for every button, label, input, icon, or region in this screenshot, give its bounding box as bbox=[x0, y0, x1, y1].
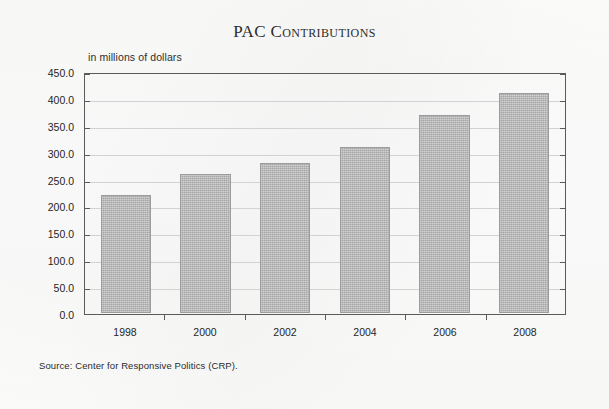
bar-slot bbox=[484, 74, 564, 313]
bar-slot bbox=[325, 74, 405, 313]
x-tick-label: 2004 bbox=[325, 326, 405, 338]
y-tick-label: 400.0 bbox=[48, 94, 74, 106]
x-axis-tick bbox=[405, 315, 406, 320]
x-axis-ticks bbox=[84, 315, 566, 320]
y-tick-label: 0.0 bbox=[59, 309, 74, 321]
y-tick-label: 200.0 bbox=[48, 201, 74, 213]
y-axis-labels: 0.050.0100.0150.0200.0250.0300.0350.0400… bbox=[0, 73, 78, 315]
bar bbox=[180, 174, 230, 313]
x-axis-tick bbox=[245, 315, 246, 320]
bar bbox=[419, 115, 469, 313]
chart-page: PAC Contributions in millions of dollars… bbox=[0, 0, 609, 409]
bar-slot bbox=[166, 74, 246, 313]
x-axis-tick bbox=[486, 315, 487, 320]
x-tick-label: 1998 bbox=[85, 326, 165, 338]
bar-slot bbox=[86, 74, 166, 313]
bar-series bbox=[86, 74, 564, 313]
chart-title: PAC Contributions bbox=[0, 22, 609, 42]
chart-subtitle-units: in millions of dollars bbox=[88, 51, 182, 63]
plot-area bbox=[84, 73, 566, 315]
x-axis-tick bbox=[164, 315, 165, 320]
bar-slot bbox=[405, 74, 485, 313]
bar bbox=[101, 195, 151, 313]
x-axis-labels: 199820002002200420062008 bbox=[85, 326, 565, 338]
y-tick-label: 450.0 bbox=[48, 67, 74, 79]
bar bbox=[260, 163, 310, 313]
bar bbox=[340, 147, 390, 313]
y-tick-label: 50.0 bbox=[54, 282, 74, 294]
y-tick-label: 100.0 bbox=[48, 255, 74, 267]
y-tick-label: 300.0 bbox=[48, 148, 74, 160]
bar bbox=[499, 93, 549, 313]
y-tick-label: 350.0 bbox=[48, 121, 74, 133]
x-axis-tick bbox=[325, 315, 326, 320]
x-tick-label: 2002 bbox=[245, 326, 325, 338]
bar-slot bbox=[245, 74, 325, 313]
source-note: Source: Center for Responsive Politics (… bbox=[39, 360, 238, 371]
y-tick-label: 250.0 bbox=[48, 175, 74, 187]
x-tick-label: 2000 bbox=[165, 326, 245, 338]
x-tick-label: 2008 bbox=[485, 326, 565, 338]
x-tick-label: 2006 bbox=[405, 326, 485, 338]
y-tick-label: 150.0 bbox=[48, 228, 74, 240]
